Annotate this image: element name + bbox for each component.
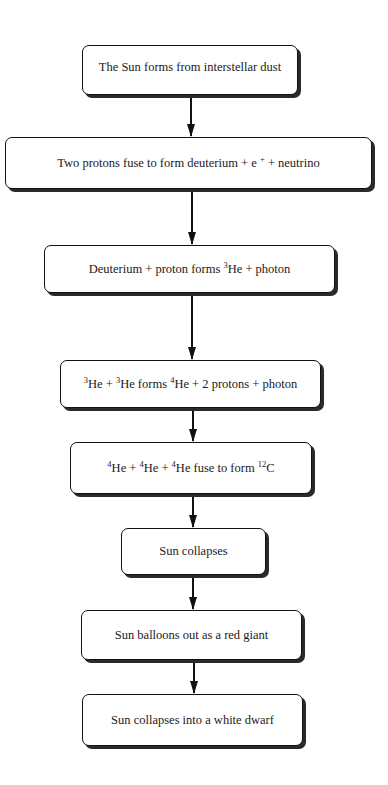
flow-step-triple-alpha: 4He + 4He + 4He fuse to form 12C	[70, 442, 312, 494]
flow-step-label: Sun collapses	[159, 544, 227, 559]
flow-step-label: Sun collapses into a white dwarf	[111, 713, 274, 728]
flow-step-deuterium-proton: Deuterium + proton forms 3He + photon	[44, 245, 335, 293]
flow-step-sun-collapses: Sun collapses	[121, 528, 266, 575]
flow-step-label: Sun balloons out as a red giant	[115, 628, 268, 643]
flow-step-proton-fusion: Two protons fuse to form deuterium + e +…	[5, 137, 372, 189]
flow-step-label: 3He + 3He forms 4He + 2 protons + photon	[84, 377, 297, 392]
flow-step-label: Two protons fuse to form deuterium + e +…	[57, 156, 319, 171]
flow-step-label: Deuterium + proton forms 3He + photon	[89, 262, 291, 277]
flow-step-label: The Sun forms from interstellar dust	[99, 60, 281, 75]
flow-step-helium3-fusion: 3He + 3He forms 4He + 2 protons + photon	[60, 360, 321, 408]
flow-step-white-dwarf: Sun collapses into a white dwarf	[82, 694, 303, 746]
flow-step-red-giant: Sun balloons out as a red giant	[81, 610, 302, 660]
flow-step-label: 4He + 4He + 4He fuse to form 12C	[107, 461, 274, 476]
flow-step-sun-forms: The Sun forms from interstellar dust	[82, 45, 298, 95]
